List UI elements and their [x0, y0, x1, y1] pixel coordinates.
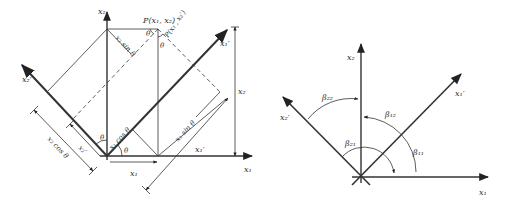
x2-sin-theta-label: x₂ sin θ: [114, 34, 138, 59]
dim-x2-prime-label: x₂′: [77, 144, 89, 156]
x1-sin-theta-label: x₁ sin θ: [174, 118, 198, 143]
theta-label-left: θ: [100, 134, 105, 142]
diagram-canvas: x₂ x₁ x₁′ x₂′ P(x₁, x₂) P(x₁′, x₂′) θ θ …: [0, 0, 510, 203]
theta-label-top2: θ: [160, 42, 165, 50]
left-x1-label: x₁: [244, 165, 252, 174]
dim-x2-label: x₂: [238, 87, 246, 96]
beta11-label: β₁₁: [412, 148, 424, 157]
right-x1-label: x₁: [479, 188, 487, 197]
left-x1-prime-label: x₁′: [220, 39, 230, 48]
dim-x1-prime-label: x₁′: [195, 145, 205, 154]
left-x2-label: x₂: [98, 7, 106, 16]
dim-x1-label: x₁: [130, 169, 138, 178]
x2-cos-theta-label: x₂ cos θ: [46, 135, 71, 161]
right-x2-prime-axis: [283, 97, 370, 185]
left-rotation-diagram: [22, 12, 252, 194]
right-x2-label: x₂: [347, 53, 355, 62]
theta-label-right: θ: [124, 147, 129, 155]
left-x2-prime-label: x₂′: [22, 75, 32, 84]
right-x1-prime-axis: [352, 74, 461, 185]
right-x1-prime-label: x₁′: [455, 89, 465, 98]
beta22-label: β₂₂: [321, 93, 333, 102]
right-x2-prime-label: x₂′: [280, 113, 290, 122]
beta12-label: β₁₂: [384, 110, 396, 119]
beta21-label: β₂₁: [344, 139, 356, 148]
